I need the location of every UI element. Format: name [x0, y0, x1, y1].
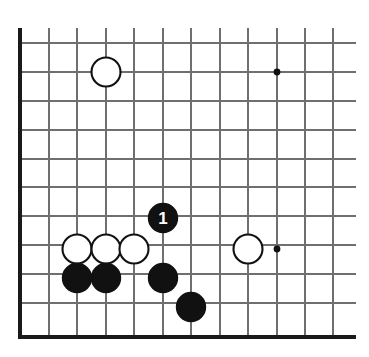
- white-stone-right[interactable]: [234, 235, 263, 264]
- black-stone-row-c[interactable]: [149, 264, 178, 293]
- go-board-diagram: 1: [0, 0, 369, 357]
- white-stone-row-a[interactable]: [63, 235, 92, 264]
- star-point-lower-right: [274, 246, 281, 253]
- go-board-canvas[interactable]: 1: [0, 0, 369, 357]
- black-stone-bottom[interactable]: [177, 293, 206, 322]
- grid-vertical-lines: [20, 28, 333, 337]
- stone-move-number-label: 1: [158, 209, 167, 228]
- white-stone-upper-left[interactable]: [92, 58, 121, 87]
- star-point-upper-right: [274, 69, 281, 76]
- white-stone-row-c[interactable]: [120, 235, 149, 264]
- black-stone-row-a[interactable]: [63, 264, 92, 293]
- black-stone-row-b[interactable]: [92, 264, 121, 293]
- white-stone-row-b[interactable]: [92, 235, 121, 264]
